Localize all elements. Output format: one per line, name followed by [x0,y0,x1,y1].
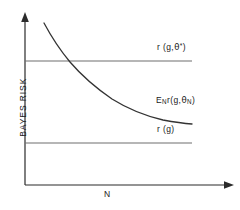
upper-line-label-suffix: ) [183,42,186,52]
upper-line-label-prefix: r (g, [157,42,174,52]
right-arrow-icon [224,181,234,189]
lower-line-label: r (g) [157,125,175,134]
curve-label-mid: r(g, [167,95,181,105]
x-axis-title: N [104,190,111,199]
up-arrow-icon [21,12,29,22]
plot-canvas [0,0,240,210]
curve-label: ENr(g,θN) [156,96,195,106]
expected-risk-curve [44,23,192,124]
bayes-risk-figure: r (g,θ*) ENr(g,θN) r (g) BAYES RISK N [0,0,240,210]
y-axis-title: BAYES RISK [19,62,28,152]
curve-label-suffix: ) [192,95,195,105]
upper-line-label: r (g,θ*) [157,43,186,52]
